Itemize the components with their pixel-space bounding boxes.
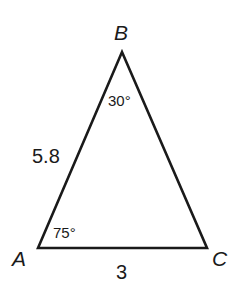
- vertex-label-c: C: [212, 248, 227, 269]
- angle-label-b: 30°: [108, 93, 131, 108]
- angle-label-a: 75°: [53, 225, 76, 240]
- vertex-label-b: B: [114, 22, 128, 43]
- triangle-diagram: B A C 5.8 3 30° 75°: [0, 0, 235, 293]
- side-label-ab: 5.8: [32, 146, 60, 166]
- side-label-ac: 3: [116, 262, 127, 282]
- vertex-label-a: A: [12, 248, 26, 269]
